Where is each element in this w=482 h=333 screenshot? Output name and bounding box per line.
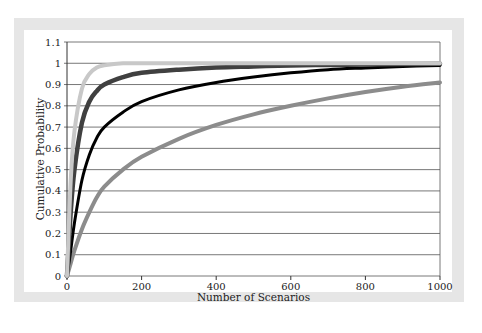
y-tick-label: 0.2 [45, 228, 61, 239]
y-tick-label: 0.5 [45, 164, 61, 175]
y-axis-title: Cumulative Probability [34, 98, 46, 221]
y-tick-label: 0.3 [45, 207, 61, 218]
x-tick-label: 200 [132, 281, 151, 292]
y-tick-label: 0 [55, 271, 61, 282]
y-tick-label: 1.1 [45, 37, 61, 48]
x-tick-label: 800 [356, 281, 375, 292]
y-tick-label: 0.6 [45, 143, 61, 154]
y-tick-label: 1 [55, 58, 61, 69]
x-tick-label: 0 [64, 281, 70, 292]
line-chart: 00.10.20.30.40.50.60.70.80.911.102004006… [0, 0, 482, 333]
x-tick-label: 1000 [427, 281, 452, 292]
y-tick-label: 0.9 [45, 79, 61, 90]
y-tick-label: 0.8 [45, 100, 61, 111]
y-tick-label: 0.4 [45, 185, 61, 196]
y-tick-label: 0.1 [45, 249, 61, 260]
y-tick-label: 0.7 [45, 122, 61, 133]
x-axis-title: Number of Scenarios [197, 291, 310, 303]
